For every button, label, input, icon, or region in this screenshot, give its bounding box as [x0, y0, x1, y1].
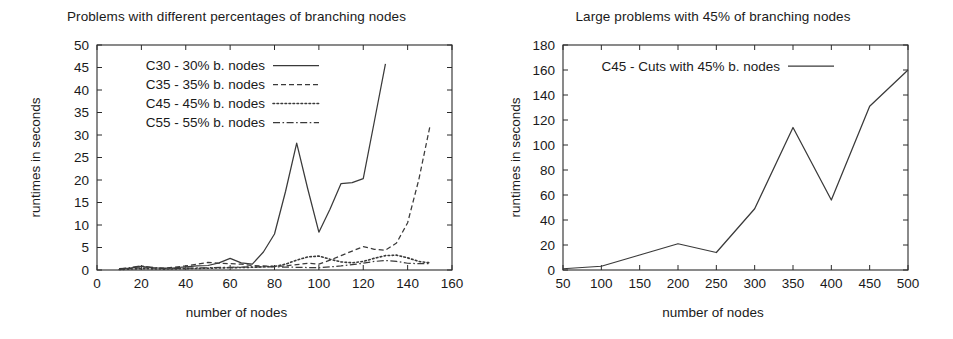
y-tick-label: 35 — [74, 105, 89, 120]
legend-label: C30 - 30% b. nodes — [146, 58, 266, 73]
x-tick-label: 100 — [308, 276, 331, 291]
y-tick-label: 20 — [74, 173, 89, 188]
y-tick-label: 50 — [74, 38, 89, 53]
x-tick-label: 60 — [223, 276, 238, 291]
y-tick-label: 20 — [540, 238, 555, 253]
x-tick-label: 80 — [267, 276, 282, 291]
x-tick-label: 250 — [705, 276, 728, 291]
chart-panel-left: Problems with different percentages of b… — [0, 0, 473, 339]
x-tick-label: 50 — [555, 276, 570, 291]
legend-label: C45 - 45% b. nodes — [146, 96, 266, 111]
x-tick-label: 160 — [441, 276, 464, 291]
x-tick-label: 350 — [782, 276, 805, 291]
y-tick-label: 180 — [532, 38, 555, 53]
x-tick-label: 120 — [352, 276, 375, 291]
chart-panel-right: Large problems with 45% of branching nod… — [473, 0, 953, 339]
y-tick-label: 0 — [81, 263, 89, 278]
plot-area-left: 0204060801001201401600510152025303540455… — [0, 0, 473, 339]
legend-label: C55 - 55% b. nodes — [146, 115, 266, 130]
legend-label: C35 - 35% b. nodes — [146, 77, 266, 92]
y-tick-label: 25 — [74, 150, 89, 165]
x-tick-label: 140 — [396, 276, 419, 291]
y-tick-label: 120 — [532, 113, 555, 128]
x-tick-label: 400 — [820, 276, 843, 291]
y-tick-label: 0 — [547, 263, 555, 278]
x-tick-label: 0 — [93, 276, 101, 291]
x-tick-label: 40 — [178, 276, 193, 291]
y-tick-label: 100 — [532, 138, 555, 153]
y-tick-label: 80 — [540, 163, 555, 178]
y-tick-label: 10 — [74, 218, 89, 233]
x-tick-label: 450 — [858, 276, 881, 291]
y-tick-label: 45 — [74, 60, 89, 75]
y-tick-label: 160 — [532, 63, 555, 78]
x-tick-label: 150 — [628, 276, 651, 291]
figure-container: Problems with different percentages of b… — [0, 0, 953, 339]
series-line — [563, 70, 908, 269]
x-tick-label: 500 — [897, 276, 920, 291]
x-tick-label: 300 — [743, 276, 766, 291]
y-tick-label: 5 — [81, 240, 89, 255]
y-tick-label: 40 — [540, 213, 555, 228]
legend-label: C45 - Cuts with 45% b. nodes — [601, 59, 780, 74]
y-tick-label: 30 — [74, 128, 89, 143]
series-line — [119, 127, 430, 269]
y-tick-label: 40 — [74, 83, 89, 98]
y-tick-label: 60 — [540, 188, 555, 203]
x-tick-label: 100 — [590, 276, 613, 291]
plot-area-right: 5010015020025030035040045050002040608010… — [473, 0, 953, 339]
y-tick-label: 15 — [74, 195, 89, 210]
x-tick-label: 200 — [667, 276, 690, 291]
x-tick-label: 20 — [134, 276, 149, 291]
y-tick-label: 140 — [532, 88, 555, 103]
